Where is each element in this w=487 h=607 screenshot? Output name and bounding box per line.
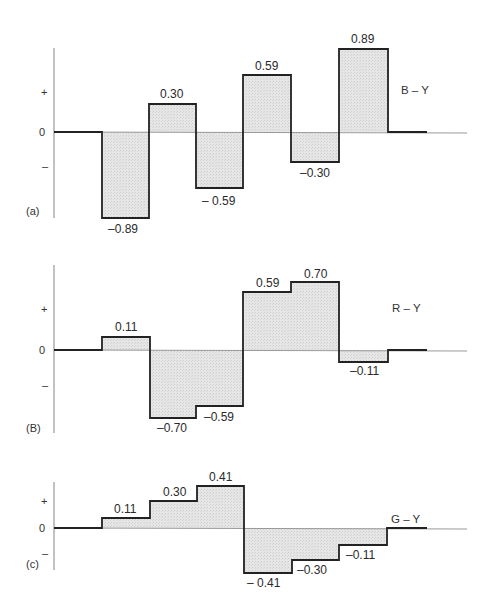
panel-label: (a) xyxy=(26,205,39,217)
panel-a-b-minus-y: + 0 – (a) B – Y –0.89 0.30 – 0.59 0.59 –… xyxy=(26,32,467,236)
tick-minus: – xyxy=(42,379,49,391)
value-label: –0.59 xyxy=(204,410,234,424)
value-label: –0.70 xyxy=(157,421,187,435)
value-label: –0.11 xyxy=(350,364,379,378)
value-label: 0.11 xyxy=(115,320,138,334)
tick-plus: + xyxy=(41,303,47,315)
panel-c-g-minus-y: + 0 – (c) G – Y 0.11 0.30 0.41 – 0.41 –0… xyxy=(26,470,467,590)
value-label: – 0.41 xyxy=(247,576,281,590)
value-label: 0.30 xyxy=(163,485,187,499)
signal-label: B – Y xyxy=(401,84,429,96)
tick-plus: + xyxy=(41,86,47,98)
tick-minus: – xyxy=(42,160,49,172)
signal-label: G – Y xyxy=(391,513,421,525)
panel-label: (c) xyxy=(26,558,39,570)
panel-label: (B) xyxy=(26,422,41,434)
value-label: 0.89 xyxy=(351,32,375,46)
value-label: 0.30 xyxy=(160,87,184,101)
tick-minus: – xyxy=(42,547,49,559)
value-label: –0.11 xyxy=(346,548,375,562)
tick-plus: + xyxy=(41,495,47,507)
signal-label: R – Y xyxy=(392,302,421,314)
value-label: 0.70 xyxy=(304,267,328,281)
value-label: – 0.59 xyxy=(202,194,236,208)
value-label: –0.89 xyxy=(108,222,138,236)
tick-zero: 0 xyxy=(39,344,45,356)
value-label: 0.59 xyxy=(255,59,279,73)
value-label: 0.41 xyxy=(209,470,233,484)
value-label: –0.30 xyxy=(297,563,327,577)
color-difference-waveforms: + 0 – (a) B – Y –0.89 0.30 – 0.59 0.59 –… xyxy=(0,0,487,607)
value-label: –0.30 xyxy=(300,166,330,180)
panel-b-r-minus-y: + 0 – (B) R – Y 0.11 –0.70 –0.59 0.59 0.… xyxy=(26,265,467,435)
tick-zero: 0 xyxy=(39,126,45,138)
value-label: 0.59 xyxy=(256,276,280,290)
value-label: 0.11 xyxy=(114,502,137,516)
tick-zero: 0 xyxy=(39,522,45,534)
